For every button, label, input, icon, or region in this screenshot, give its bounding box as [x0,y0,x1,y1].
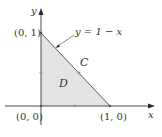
curve-label-leader-line [58,35,74,46]
diagram-canvas: y x (0, 1) (0, 0) (1, 0) y = 1 − x C D [0,0,162,137]
x-axis-label: x [148,110,154,120]
boundary-label-c: C [80,57,88,68]
vertex-label-origin: (0, 0) [16,112,43,122]
curve-equation-label: y = 1 − x [75,27,122,37]
vertex-dot-origin [40,105,43,108]
vertex-label-top: (0, 1) [14,28,41,38]
vertex-dot-right [109,105,112,108]
vertex-label-right: (1, 0) [100,112,127,122]
region-label-d: D [59,78,68,89]
y-axis-arrow-icon [39,8,44,15]
x-axis-arrow-icon [148,104,155,109]
y-axis-label: y [31,6,37,16]
